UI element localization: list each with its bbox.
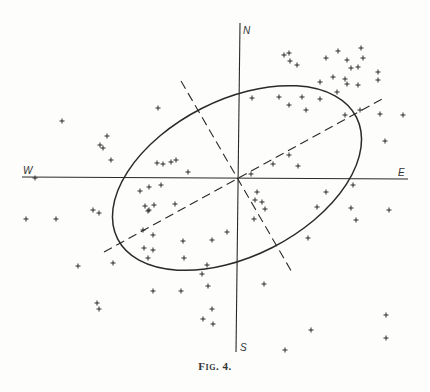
plus-marker-icon (169, 160, 174, 165)
plus-marker-icon (156, 106, 161, 111)
plus-marker-icon (151, 289, 156, 294)
figure-caption: Fig. 4. (0, 360, 430, 372)
plus-marker-icon (250, 96, 255, 101)
plus-marker-icon (343, 113, 348, 118)
plus-marker-icon (324, 56, 329, 61)
plus-marker-icon (98, 143, 103, 148)
plus-marker-icon (336, 49, 341, 54)
plus-marker-icon (147, 185, 152, 190)
plus-marker-icon (262, 282, 267, 287)
compass-axes (22, 23, 408, 352)
plus-marker-icon (260, 200, 265, 205)
plus-marker-icon (54, 217, 59, 222)
plus-marker-icon (151, 233, 156, 238)
plus-marker-icon (304, 108, 309, 113)
west-label: W (23, 165, 34, 176)
plus-marker-icon (211, 322, 216, 327)
plus-marker-icon (288, 59, 293, 64)
plus-marker-icon (182, 256, 187, 261)
plus-marker-icon (179, 289, 184, 294)
plus-marker-icon (210, 238, 215, 243)
plus-marker-icon (287, 153, 292, 158)
plus-marker-icon (376, 70, 381, 75)
plus-marker-icon (354, 218, 359, 223)
plus-marker-icon (335, 90, 340, 95)
east-label: E (398, 167, 405, 178)
plus-marker-icon (287, 103, 292, 108)
plus-marker-icon (205, 263, 210, 268)
plus-marker-icon (263, 207, 268, 212)
plus-marker-icon (318, 97, 323, 102)
plus-marker-icon (147, 208, 152, 213)
plus-marker-icon (295, 63, 300, 68)
plus-marker-icon (356, 65, 361, 70)
plus-marker-icon (309, 328, 314, 333)
plus-marker-icon (383, 139, 388, 144)
major-axis-dashed-line (104, 99, 382, 252)
plus-marker-icon (225, 230, 230, 235)
plus-marker-icon (201, 317, 206, 322)
plus-marker-icon (287, 51, 292, 56)
plus-marker-icon (384, 336, 389, 341)
plus-marker-icon (318, 80, 323, 85)
data-points (24, 46, 406, 353)
plus-marker-icon (143, 204, 148, 209)
plus-marker-icon (376, 78, 381, 83)
plus-marker-icon (378, 112, 383, 117)
plus-marker-icon (349, 206, 354, 211)
plus-marker-icon (206, 284, 211, 289)
plus-marker-icon (358, 108, 363, 113)
plus-marker-icon (200, 272, 205, 277)
plus-marker-icon (361, 56, 366, 61)
plus-marker-icon (283, 348, 288, 353)
plus-marker-icon (300, 95, 305, 100)
scatter-diagram: N S E W (0, 0, 430, 392)
plus-marker-icon (401, 113, 406, 118)
plus-marker-icon (210, 307, 215, 312)
plus-marker-icon (387, 208, 392, 213)
plus-marker-icon (97, 307, 102, 312)
plus-marker-icon (252, 217, 257, 222)
plus-marker-icon (60, 119, 65, 124)
plus-marker-icon (351, 183, 356, 188)
plus-marker-icon (181, 239, 186, 244)
plus-marker-icon (152, 203, 157, 208)
plus-marker-icon (359, 46, 364, 51)
plus-marker-icon (97, 211, 102, 216)
plus-marker-icon (95, 301, 100, 306)
plus-marker-icon (271, 162, 276, 167)
plus-marker-icon (151, 248, 156, 253)
plus-marker-icon (296, 164, 301, 169)
plus-marker-icon (315, 205, 320, 210)
plus-marker-icon (282, 53, 287, 58)
plus-marker-icon (255, 190, 260, 195)
plus-marker-icon (91, 208, 96, 213)
plus-marker-icon (101, 146, 106, 151)
plus-marker-icon (146, 256, 151, 261)
plus-marker-icon (174, 158, 179, 163)
north-label: N (243, 25, 251, 36)
plus-marker-icon (138, 189, 143, 194)
plus-marker-icon (111, 261, 116, 266)
south-label: S (240, 342, 247, 353)
plus-marker-icon (142, 246, 147, 251)
plus-marker-icon (24, 217, 29, 222)
plus-marker-icon (343, 77, 348, 82)
plus-marker-icon (345, 82, 350, 87)
plus-marker-icon (146, 209, 151, 214)
plus-marker-icon (249, 172, 254, 177)
plus-marker-icon (306, 236, 311, 241)
plus-marker-icon (109, 158, 114, 163)
north-south-axis (236, 23, 240, 352)
plus-marker-icon (324, 190, 329, 195)
plus-marker-icon (349, 66, 354, 71)
plus-marker-icon (159, 183, 164, 188)
plus-marker-icon (277, 95, 282, 100)
plus-marker-icon (76, 264, 81, 269)
plus-marker-icon (161, 162, 166, 167)
plus-marker-icon (356, 83, 361, 88)
plus-marker-icon (155, 161, 160, 166)
plus-marker-icon (331, 75, 336, 80)
plus-marker-icon (345, 58, 350, 63)
plus-marker-icon (253, 198, 258, 203)
